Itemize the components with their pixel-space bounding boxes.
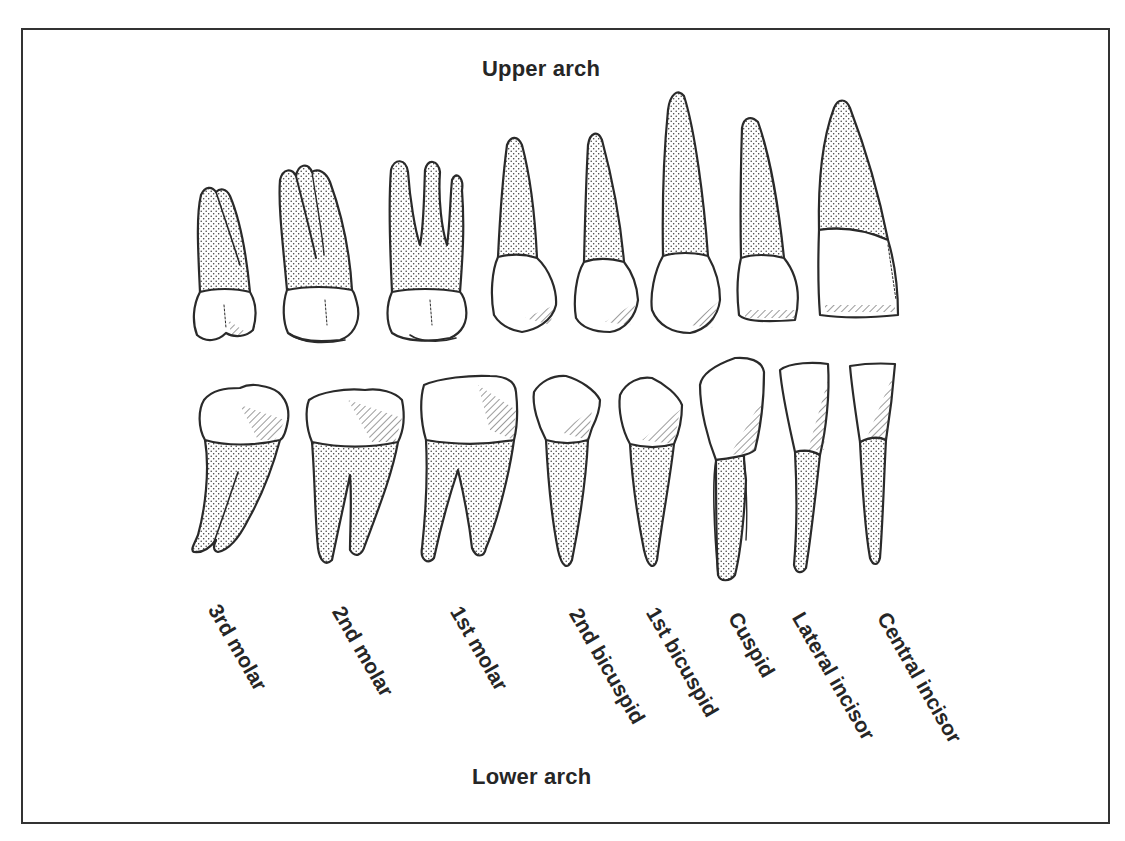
upper-lateral-incisor	[738, 118, 798, 321]
upper-cuspid	[651, 92, 720, 333]
upper-central-incisor	[818, 101, 898, 318]
upper-1st-bicuspid	[575, 134, 638, 332]
upper-3rd-molar	[194, 188, 256, 340]
lower-2nd-bicuspid	[534, 376, 600, 566]
lower-1st-bicuspid	[619, 378, 682, 566]
lower-lateral-incisor	[780, 363, 829, 572]
lower-cuspid	[700, 358, 764, 580]
lower-3rd-molar	[192, 385, 288, 552]
upper-1st-molar	[388, 161, 467, 341]
lower-central-incisor	[850, 364, 895, 564]
lower-2nd-molar	[307, 389, 404, 562]
lower-1st-molar	[421, 376, 517, 561]
upper-2nd-molar	[280, 166, 359, 343]
lower-arch-title: Lower arch	[472, 764, 591, 790]
teeth-illustration	[0, 0, 1125, 841]
upper-2nd-bicuspid	[492, 138, 556, 332]
